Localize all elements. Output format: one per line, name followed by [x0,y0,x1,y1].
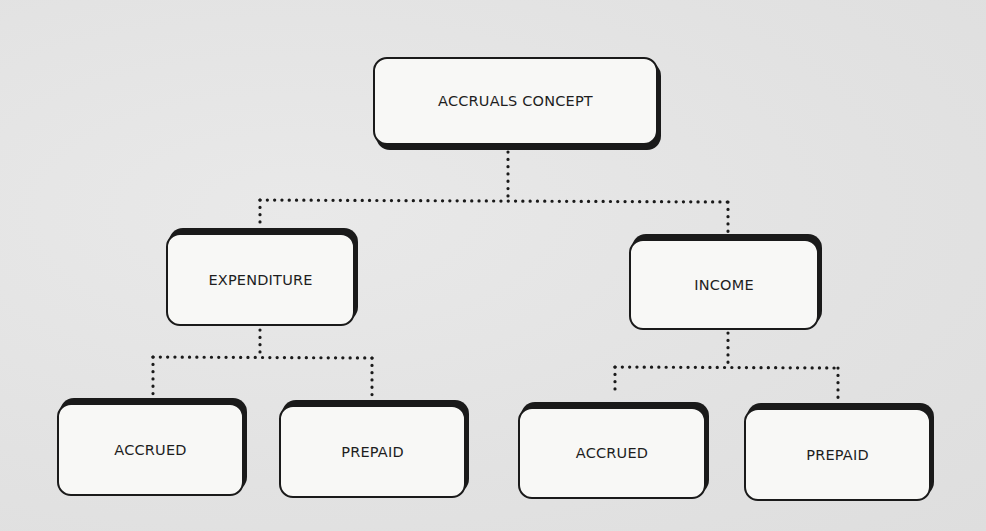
connector-root-bar [260,200,728,202]
node-expenditure-accrued: ACCRUED [57,403,244,496]
node-accruals-concept: ACCRUALS CONCEPT [373,57,658,145]
node-label: ACCRUED [114,442,186,458]
node-income-accrued: ACCRUED [518,407,706,499]
node-label: ACCRUALS CONCEPT [438,93,593,109]
node-label: INCOME [694,277,754,293]
connector-expenditure-bar [153,357,372,358]
node-income-prepaid: PREPAID [744,408,931,501]
node-label: PREPAID [806,447,869,463]
diagram-canvas: ACCRUALS CONCEPT EXPENDITURE INCOME ACCR… [0,0,986,531]
node-label: ACCRUED [576,445,648,461]
node-expenditure: EXPENDITURE [166,233,355,326]
node-label: PREPAID [341,444,404,460]
node-expenditure-prepaid: PREPAID [279,405,466,498]
connector-income-bar [615,367,838,368]
node-label: EXPENDITURE [208,272,312,288]
node-income: INCOME [629,239,819,330]
